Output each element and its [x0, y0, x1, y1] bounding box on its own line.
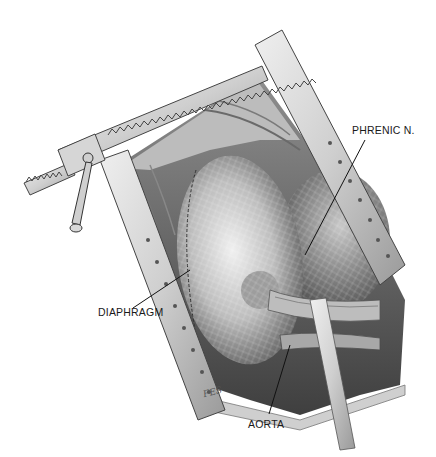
label-diaphragm: DIAPHRAGM: [98, 306, 163, 318]
label-phrenic-nerve: PHRENIC N.: [352, 124, 415, 136]
retractor-crank: [58, 134, 105, 232]
label-aorta: AORTA: [248, 418, 284, 430]
crank-pivot: [83, 153, 93, 163]
